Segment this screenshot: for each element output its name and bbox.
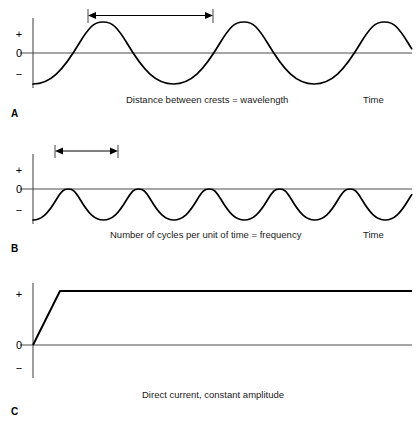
panel-a-wavelength-annotation: [88, 9, 213, 23]
panel-b-tick-minus: −: [16, 204, 22, 216]
panel-a-tick-plus: +: [16, 28, 22, 40]
panel-a-letter: A: [11, 108, 18, 119]
panel-c-tick-zero: 0: [16, 339, 22, 351]
panel-a: + 0 − Distance between crests = waveleng…: [11, 9, 412, 119]
panel-b-period-annotation: [55, 145, 118, 158]
panel-a-arrow-head-left-icon: [88, 12, 96, 19]
panel-c-letter: C: [11, 406, 18, 417]
panel-a-tick-minus: −: [16, 68, 22, 80]
panel-b: + 0 − Number of cycles per unit of time …: [11, 145, 412, 254]
panel-b-arrow-head-right-icon: [110, 148, 118, 155]
panel-a-time-label: Time: [363, 94, 384, 105]
panel-b-sine-wave: [33, 189, 412, 220]
panel-b-letter: B: [11, 243, 18, 254]
panel-b-tick-zero: 0: [16, 183, 22, 195]
panel-c-dc-trace: [33, 291, 412, 345]
panel-b-caption: Number of cycles per unit of time = freq…: [110, 229, 302, 240]
panel-a-arrow-head-right-icon: [205, 12, 213, 19]
waveform-diagram-canvas: + 0 − Distance between crests = waveleng…: [0, 0, 420, 435]
panel-c-tick-plus: +: [16, 288, 22, 300]
panel-c-tick-minus: −: [16, 362, 22, 374]
panel-b-tick-plus: +: [16, 164, 22, 176]
panel-c: + 0 − Direct current, constant amplitude…: [11, 283, 412, 417]
panel-b-time-label: Time: [363, 229, 384, 240]
panel-c-caption: Direct current, constant amplitude: [142, 389, 284, 400]
panel-b-arrow-head-left-icon: [55, 148, 63, 155]
waveform-figure: + 0 − Distance between crests = waveleng…: [0, 0, 420, 435]
panel-a-caption: Distance between crests = wavelength: [126, 94, 288, 105]
panel-a-tick-zero: 0: [16, 47, 22, 59]
